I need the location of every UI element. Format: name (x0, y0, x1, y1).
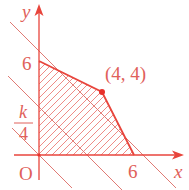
x-tick-6-label: 6 (128, 161, 138, 182)
line-x-plus-y-eq-8 (10, 22, 176, 188)
k-denominator-label: 4 (19, 124, 28, 144)
origin-label: O (19, 163, 33, 184)
y-tick-6-label: 6 (22, 53, 32, 74)
origin-point (37, 153, 40, 156)
vertex-point (99, 89, 105, 95)
k-numerator-label: k (19, 102, 28, 122)
vertex-label: (4, 4) (105, 63, 146, 85)
y-axis-label: y (20, 1, 31, 22)
coordinate-diagram: y x O 6 6 k 4 (4, 4) (0, 0, 189, 190)
x-axis-label: x (173, 161, 183, 182)
